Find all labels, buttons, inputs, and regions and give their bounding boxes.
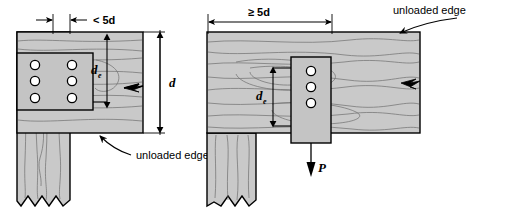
bolt-hole (30, 93, 39, 102)
right-diagram: P ≥ 5d d e unloaded edge (207, 4, 466, 206)
bolt-hole (306, 82, 315, 91)
right-column-member (207, 133, 256, 206)
bolt-hole (67, 76, 76, 85)
bolt-hole (30, 60, 39, 69)
bolt-hole (306, 98, 315, 107)
right-de-label: d (256, 88, 263, 103)
right-unloaded-edge-callout: unloaded edge (393, 4, 466, 33)
left-bolt-plate (17, 53, 93, 110)
left-spacing-label: < 5d (93, 14, 115, 26)
left-de-subscript: e (98, 71, 102, 80)
right-spacing-label: ≥ 5d (248, 6, 270, 18)
left-callout-label: unloaded edge (136, 149, 209, 161)
right-spacing-dimension: ≥ 5d (209, 6, 331, 22)
left-depth-dimension: d (143, 30, 176, 135)
right-bolt-group (306, 66, 315, 107)
right-de-subscript: e (263, 97, 267, 106)
left-unloaded-edge-callout: unloaded edge (100, 136, 209, 161)
right-bolt-plate (291, 57, 331, 143)
left-diagram: < 5d d e d unloaded edge (17, 14, 209, 206)
right-load-label: P (318, 160, 327, 175)
left-de-label: d (91, 62, 98, 77)
engineering-figure: < 5d d e d unloaded edge (0, 0, 509, 221)
left-depth-label: d (169, 75, 176, 90)
right-load-arrow: P (307, 143, 328, 177)
right-callout-label: unloaded edge (393, 4, 466, 16)
bolt-hole (67, 93, 76, 102)
bolt-hole (306, 66, 315, 75)
left-extension-lines (53, 14, 70, 34)
diagram-canvas: < 5d d e d unloaded edge (0, 0, 509, 221)
left-spacing-dimension: < 5d (71, 14, 115, 26)
bolt-hole (67, 60, 76, 69)
right-extension-lines (208, 14, 332, 34)
bolt-hole (30, 76, 39, 85)
